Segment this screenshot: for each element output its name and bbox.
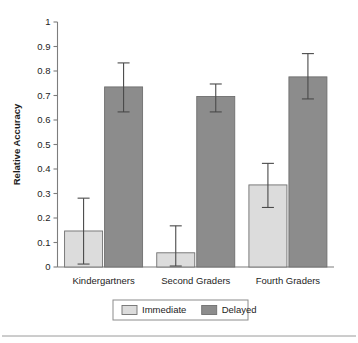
y-tick-label: 0.5	[37, 139, 50, 150]
legend-swatch-delayed	[202, 306, 217, 315]
figure-container: 00.10.20.30.40.50.60.70.80.91Relative Ac…	[0, 0, 358, 343]
y-tick-label: 0.2	[37, 212, 50, 223]
legend-label-immediate: Immediate	[142, 304, 186, 315]
y-tick-label: 0.3	[37, 188, 50, 199]
bar-delayed-1	[197, 96, 235, 267]
y-tick-label: 0.1	[37, 237, 50, 248]
x-category-label-0: Kindergartners	[72, 275, 135, 286]
bar-delayed-0	[105, 87, 143, 267]
chart-canvas: 00.10.20.30.40.50.60.70.80.91Relative Ac…	[0, 0, 358, 343]
legend-label-delayed: Delayed	[222, 304, 257, 315]
legend-swatch-immediate	[122, 306, 137, 315]
y-tick-label: 0.6	[37, 114, 50, 125]
y-tick-label: 0.7	[37, 90, 50, 101]
y-tick-label: 0.9	[37, 41, 50, 52]
y-tick-label: 1	[45, 16, 50, 27]
x-category-label-2: Fourth Graders	[256, 275, 321, 286]
y-tick-label: 0.4	[37, 163, 50, 174]
bar-chart: 00.10.20.30.40.50.60.70.80.91Relative Ac…	[0, 0, 358, 343]
y-axis-title: Relative Accuracy	[11, 103, 22, 185]
y-tick-label: 0.8	[37, 65, 50, 76]
bar-delayed-2	[289, 77, 327, 267]
y-tick-label: 0	[45, 261, 50, 272]
x-category-label-1: Second Graders	[161, 275, 230, 286]
